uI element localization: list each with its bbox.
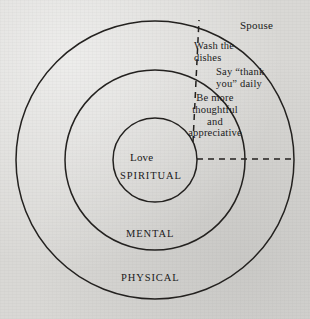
ring-label-mental: MENTAL: [126, 228, 174, 240]
annotation-say-thank-you: Say “thank you” daily: [216, 66, 264, 90]
annotation-be-more-thoughtful: Be more thoughtful and appreciative: [176, 92, 254, 139]
outer-ring-physical: [16, 21, 294, 299]
spouse-circles-diagram: Spouse Wash the dishes Say “thank you” d…: [0, 0, 310, 319]
ring-label-physical: PHYSICAL: [121, 272, 180, 284]
ring-label-spiritual: SPIRITUAL: [120, 170, 182, 182]
diagram-title-spouse: Spouse: [240, 19, 273, 31]
inner-label-love: Love: [130, 151, 153, 163]
annotation-wash-dishes: Wash the dishes: [194, 40, 234, 64]
